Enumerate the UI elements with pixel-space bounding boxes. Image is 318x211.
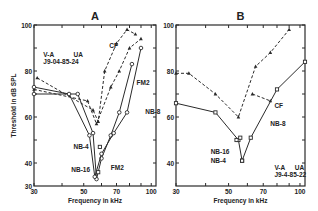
square-marker — [249, 136, 252, 139]
x-tick-label: 100 — [146, 188, 157, 195]
series-line-cf — [176, 30, 289, 117]
square-marker — [97, 171, 100, 174]
square-marker — [235, 138, 238, 141]
y-tick-label: 40 — [25, 160, 33, 167]
square-marker — [174, 102, 177, 105]
square-marker — [303, 60, 306, 63]
y-tick-label: 60 — [25, 114, 33, 121]
triangle-marker — [287, 28, 291, 31]
y-tick-label: 80 — [25, 68, 33, 75]
triangle-marker — [103, 69, 107, 72]
triangle-marker — [86, 99, 90, 102]
panel-title: A — [91, 10, 99, 22]
square-marker — [239, 136, 242, 139]
triangle-marker — [254, 64, 258, 67]
triangle-marker — [125, 28, 129, 31]
curve-label: FM2 — [137, 79, 150, 86]
curve-label: NB-4 — [73, 143, 89, 150]
triangle-marker — [128, 46, 132, 49]
curve-label: NB-8 — [270, 120, 286, 127]
x-axis-label: Frequency in kHz — [214, 197, 269, 205]
triangle-marker — [269, 51, 273, 54]
recording-annotation: J9-4-85-22 — [274, 171, 306, 178]
series-line-cf-branch — [252, 94, 270, 101]
panel-b: B305070100406080100Frequency in kHzV-AUA… — [163, 10, 306, 205]
square-marker — [98, 145, 101, 148]
curve-label: NB-16 — [211, 148, 230, 155]
circle-marker — [91, 131, 95, 135]
circle-marker — [32, 92, 36, 96]
circle-marker — [117, 111, 121, 115]
circle-marker — [130, 62, 134, 66]
panel-a: A30507010030406080100Frequency in kHzThr… — [10, 10, 161, 205]
circle-marker — [125, 111, 129, 115]
x-tick-label: 50 — [225, 188, 233, 195]
x-tick-label: 70 — [260, 188, 268, 195]
circle-marker — [88, 134, 92, 138]
triangle-marker — [251, 92, 255, 95]
circle-marker — [112, 131, 116, 135]
circle-marker — [93, 175, 97, 179]
panel-title: B — [237, 10, 245, 22]
y-tick-label: 40 — [167, 160, 175, 167]
curve-label: NB-8 — [145, 108, 161, 115]
triangle-marker — [35, 76, 39, 79]
circle-marker — [67, 92, 71, 96]
circle-marker — [32, 85, 36, 89]
x-tick-label: 70 — [113, 188, 121, 195]
recording-annotation: J9-04-85-24 — [43, 58, 79, 65]
triangle-marker — [117, 69, 121, 72]
y-tick-label: 60 — [167, 114, 175, 121]
curve-label: NB-4 — [211, 157, 227, 164]
curve-label: NB-16 — [71, 166, 90, 173]
x-axis-label: Frequency in kHz — [68, 197, 123, 205]
y-tick-label: 30 — [25, 183, 33, 190]
curve-label: CF — [274, 102, 283, 109]
threshold-tuning-figure: A30507010030406080100Frequency in kHzThr… — [0, 0, 318, 211]
triangle-marker — [134, 32, 138, 35]
curve-label: FM2 — [111, 164, 124, 171]
x-tick-label: 50 — [80, 188, 88, 195]
y-tick-label: 100 — [163, 22, 174, 29]
x-tick-label: 30 — [172, 188, 180, 195]
circle-marker — [139, 46, 143, 50]
square-marker — [214, 111, 217, 114]
triangle-marker — [139, 37, 143, 40]
square-marker — [275, 88, 278, 91]
square-marker — [240, 159, 243, 162]
curve-label: CF — [109, 42, 118, 49]
y-tick-label: 100 — [21, 22, 32, 29]
triangle-marker — [214, 92, 218, 95]
circle-marker — [76, 92, 80, 96]
y-tick-label: 80 — [167, 68, 175, 75]
y-axis-label: Threshold in dB SPL — [10, 74, 17, 138]
x-tick-label: 100 — [295, 188, 306, 195]
circle-marker — [100, 152, 104, 156]
